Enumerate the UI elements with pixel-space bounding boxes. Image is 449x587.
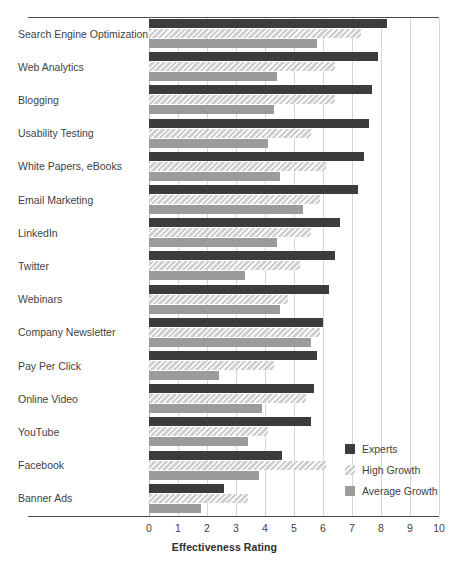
bar-group xyxy=(149,285,439,318)
legend-label: Experts xyxy=(362,443,398,455)
x-tick-8: 8 xyxy=(378,522,384,534)
legend-swatch-experts-icon xyxy=(345,444,355,454)
x-tick-1: 1 xyxy=(175,522,181,534)
x-tick-9: 9 xyxy=(407,522,413,534)
bar-avg xyxy=(149,139,268,148)
bar-experts xyxy=(149,251,335,260)
legend-label: High Growth xyxy=(362,464,420,476)
bar-group xyxy=(149,318,439,351)
x-tick-5: 5 xyxy=(291,522,297,534)
chart-legend: ExpertsHigh GrowthAverage Growth xyxy=(345,438,438,501)
legend-label: Average Growth xyxy=(362,485,438,497)
legend-item-high[interactable]: High Growth xyxy=(345,459,438,480)
y-axis-label: Banner Ads xyxy=(18,492,160,504)
bar-high xyxy=(149,29,361,38)
y-axis-label: Online Video xyxy=(18,393,160,405)
bar-avg xyxy=(149,504,201,513)
bar-high xyxy=(149,62,335,71)
bar-experts xyxy=(149,484,224,493)
bar-avg xyxy=(149,404,262,413)
y-axis-label: Pay Per Click xyxy=(18,360,160,372)
y-axis-label: Company Newsletter xyxy=(18,326,160,338)
bar-experts xyxy=(149,52,378,61)
bar-group xyxy=(149,185,439,218)
bar-group xyxy=(149,351,439,384)
x-tick-0: 0 xyxy=(146,522,152,534)
bar-avg xyxy=(149,437,248,446)
bar-avg xyxy=(149,238,277,247)
bar-group xyxy=(149,52,439,85)
bar-high xyxy=(149,394,306,403)
y-axis-label: YouTube xyxy=(18,426,160,438)
bar-experts xyxy=(149,318,323,327)
y-axis-label: Blogging xyxy=(18,94,160,106)
bar-high xyxy=(149,494,248,503)
bar-experts xyxy=(149,285,329,294)
legend-swatch-avg-icon xyxy=(345,486,355,496)
bar-avg xyxy=(149,305,280,314)
y-axis-label: Email Marketing xyxy=(18,194,160,206)
bar-high xyxy=(149,129,311,138)
bar-experts xyxy=(149,451,282,460)
bar-experts xyxy=(149,19,387,28)
bar-high xyxy=(149,427,268,436)
x-tick-6: 6 xyxy=(320,522,326,534)
y-axis-label: Usability Testing xyxy=(18,127,160,139)
bar-group xyxy=(149,119,439,152)
bar-group xyxy=(149,152,439,185)
x-tick-7: 7 xyxy=(349,522,355,534)
bar-avg xyxy=(149,338,311,347)
legend-swatch-high-icon xyxy=(345,465,355,475)
bar-group xyxy=(149,384,439,417)
x-tick-10: 10 xyxy=(433,522,445,534)
bar-group xyxy=(149,218,439,251)
y-axis-label: Twitter xyxy=(18,260,160,272)
bar-experts xyxy=(149,384,314,393)
bar-group xyxy=(149,251,439,284)
bar-high xyxy=(149,261,300,270)
bar-high xyxy=(149,195,320,204)
y-axis-label: Facebook xyxy=(18,459,160,471)
x-tick-3: 3 xyxy=(233,522,239,534)
x-tick-4: 4 xyxy=(262,522,268,534)
bar-high xyxy=(149,328,320,337)
x-axis-line xyxy=(28,516,439,517)
bar-experts xyxy=(149,85,372,94)
bar-high xyxy=(149,162,326,171)
gridline-10 xyxy=(439,18,440,516)
bar-group xyxy=(149,19,439,52)
bar-high xyxy=(149,95,335,104)
bar-experts xyxy=(149,119,369,128)
y-axis-label: Search Engine Optimization xyxy=(18,28,160,40)
y-axis-label: Webinars xyxy=(18,293,160,305)
y-axis-label: LinkedIn xyxy=(18,227,160,239)
y-axis-label: Web Analytics xyxy=(18,61,160,73)
bar-avg xyxy=(149,471,259,480)
bar-experts xyxy=(149,218,340,227)
legend-item-avg[interactable]: Average Growth xyxy=(345,480,438,501)
bar-experts xyxy=(149,417,311,426)
bar-avg xyxy=(149,205,303,214)
x-tick-2: 2 xyxy=(204,522,210,534)
bar-avg xyxy=(149,105,274,114)
bar-avg xyxy=(149,371,219,380)
bar-avg xyxy=(149,172,280,181)
bar-avg xyxy=(149,271,245,280)
legend-item-experts[interactable]: Experts xyxy=(345,438,438,459)
bar-avg xyxy=(149,39,317,48)
bar-experts xyxy=(149,152,364,161)
bar-experts xyxy=(149,351,317,360)
bar-group xyxy=(149,85,439,118)
y-axis-label: White Papers, eBooks xyxy=(18,160,160,172)
bar-high xyxy=(149,361,274,370)
bar-high xyxy=(149,461,326,470)
x-axis-title: Effectiveness Rating xyxy=(0,541,449,553)
bar-high xyxy=(149,295,288,304)
bar-avg xyxy=(149,72,277,81)
bar-chart: Search Engine OptimizationWeb AnalyticsB… xyxy=(0,0,449,587)
bar-high xyxy=(149,228,311,237)
bar-experts xyxy=(149,185,358,194)
